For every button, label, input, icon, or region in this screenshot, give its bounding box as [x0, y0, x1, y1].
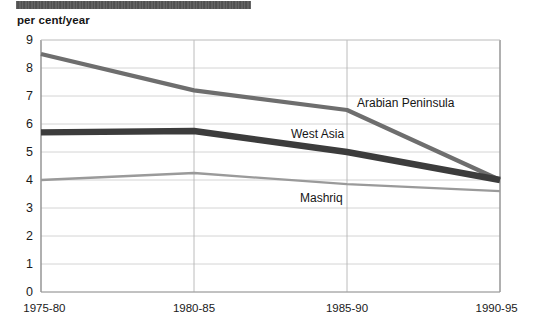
y-tick-label: 8: [26, 61, 33, 75]
y-tick-label: 4: [26, 173, 33, 187]
series-label: West Asia: [291, 127, 344, 141]
x-tick-label: 1975-80: [23, 302, 65, 314]
y-tick-label: 0: [26, 285, 33, 299]
y-tick-label: 5: [26, 145, 33, 159]
y-tick-label: 9: [26, 33, 33, 47]
series-line: [41, 131, 500, 180]
series-line: [41, 173, 500, 191]
y-tick-label: 3: [26, 201, 33, 215]
x-tick-label: 1990-95: [476, 302, 518, 314]
y-tick-label: 2: [26, 229, 33, 243]
plot-area: 0123456789 1975-801980-851985-901990-95 …: [41, 40, 500, 292]
y-tick-label: 7: [26, 89, 33, 103]
x-tick-label: 1985-90: [326, 302, 368, 314]
y-axis-unit-label: per cent/year: [17, 14, 90, 26]
x-tick-label: 1980-85: [173, 302, 215, 314]
header-band: [16, 1, 251, 9]
series-label: Mashriq: [300, 191, 343, 205]
series-label: Arabian Peninsula: [357, 96, 454, 110]
series-lines: [41, 54, 500, 191]
chart-svg: [41, 40, 500, 292]
y-tick-label: 1: [26, 257, 33, 271]
y-tick-label: 6: [26, 117, 33, 131]
chart-page: per cent/year 0123456789 1975-801980-851…: [0, 0, 555, 326]
series-line: [41, 54, 500, 180]
